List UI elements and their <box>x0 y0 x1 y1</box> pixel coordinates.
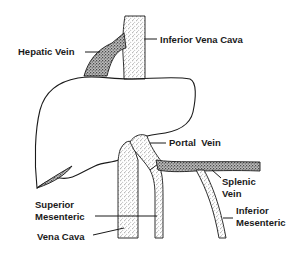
splenic-vein <box>156 160 260 172</box>
label-portal-vein: Portal Vein <box>169 137 221 148</box>
label-inferior-mesenteric-line1: Inferior <box>236 205 269 216</box>
portal-venous-diagram: Hepatic Vein Inferior Vena Cava Portal V… <box>0 0 305 254</box>
label-superior-mesenteric-line2: Mesenteric <box>35 211 85 222</box>
label-splenic-vein-line1: Splenic <box>222 176 256 187</box>
label-hepatic-vein: Hepatic Vein <box>18 46 75 57</box>
label-splenic-vein-line2: Vein <box>222 188 242 199</box>
label-inferior-vena-cava: Inferior Vena Cava <box>160 34 244 45</box>
hepatic-vein <box>84 33 126 76</box>
vena-cava-lower <box>118 141 138 238</box>
superior-mesenteric-vein <box>150 164 163 238</box>
liver-tip-shading <box>37 166 72 188</box>
label-vena-cava: Vena Cava <box>37 231 85 242</box>
label-superior-mesenteric-line1: Superior <box>35 199 74 210</box>
leader-splenic-vein <box>212 170 221 178</box>
label-inferior-mesenteric-line2: Mesenteric <box>236 217 286 228</box>
